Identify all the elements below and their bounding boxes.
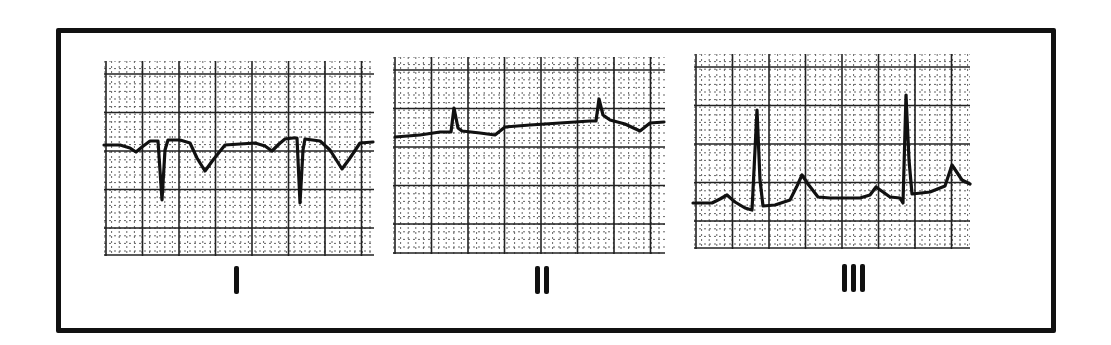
panel-label-ii: II	[535, 266, 549, 294]
ecg-trace-ii	[395, 99, 664, 137]
numeral-stroke	[842, 264, 847, 292]
numeral-stroke	[544, 266, 549, 294]
numeral-stroke	[851, 264, 856, 292]
ecg-trace-i	[104, 138, 373, 203]
numeral-stroke	[535, 266, 540, 294]
numeral-stroke	[234, 266, 239, 294]
ecg-traces	[0, 0, 1111, 345]
ecg-trace-iii	[693, 95, 970, 210]
panel-label-iii: III	[842, 264, 865, 292]
numeral-stroke	[860, 264, 865, 292]
panel-label-i: I	[234, 266, 239, 294]
